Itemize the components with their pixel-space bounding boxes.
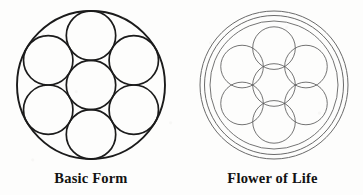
flower-pattern-boundary bbox=[210, 21, 338, 149]
basic-form-outer-circle bbox=[17, 11, 165, 159]
basic-form-center-circle bbox=[66, 60, 115, 109]
basic-form-ring-circle bbox=[109, 36, 158, 85]
flower-lattice-circle bbox=[221, 82, 264, 125]
flower-lattice-circle bbox=[285, 45, 328, 88]
flower-lattice-circle bbox=[253, 27, 296, 70]
basic-form-ring-circle bbox=[109, 85, 158, 134]
flower-lattice-circle bbox=[285, 82, 328, 125]
basic-form-ring-circle bbox=[24, 36, 73, 85]
figure-caption-flower-of-life: Flower of Life bbox=[182, 170, 363, 187]
basic-form-ring-circle bbox=[24, 85, 73, 134]
flower-of-life-diagram bbox=[182, 0, 363, 168]
figure-caption-basic-form: Basic Form bbox=[0, 170, 182, 187]
flower-lattice-circle bbox=[221, 45, 264, 88]
flower-lattice-group bbox=[221, 27, 328, 143]
figure-basic-form: Basic Form bbox=[0, 0, 182, 195]
flower-outer-ring bbox=[200, 11, 348, 159]
flower-lattice-circle bbox=[253, 101, 296, 144]
basic-form-ring-circle bbox=[66, 11, 115, 60]
figure-sheet: Basic Form Flower of Life bbox=[0, 0, 363, 195]
figure-flower-of-life: Flower of Life bbox=[182, 0, 363, 195]
flower-lattice-circle bbox=[253, 64, 296, 107]
basic-form-diagram bbox=[0, 0, 182, 168]
basic-form-ring-circle bbox=[66, 110, 115, 159]
flower-inner-ring bbox=[205, 16, 344, 155]
